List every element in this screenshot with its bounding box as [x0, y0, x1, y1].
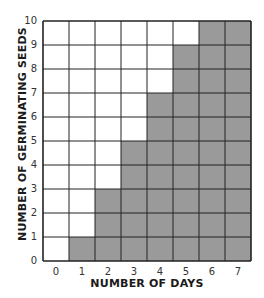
x-tick-label: 5 [176, 267, 196, 277]
bar-day-2 [95, 189, 121, 261]
bar-day-1 [69, 237, 95, 261]
x-tick-label: 3 [124, 267, 144, 277]
x-tick-label: 0 [46, 267, 66, 277]
x-tick-label: 7 [228, 267, 248, 277]
bar-day-5 [173, 45, 199, 261]
y-tick-label: 10 [23, 16, 37, 26]
x-tick-label: 2 [98, 267, 118, 277]
bar-day-4 [147, 93, 173, 261]
x-tick-label: 4 [150, 267, 170, 277]
plot-area [0, 0, 264, 298]
y-tick-label: 0 [23, 256, 37, 266]
bar-day-3 [121, 141, 147, 261]
x-tick-label: 1 [72, 267, 92, 277]
germination-chart: 012345678910 01234567 NUMBER OF DAYS NUM… [0, 0, 264, 298]
x-tick-label: 6 [202, 267, 222, 277]
y-axis-label: NUMBER OF GERMINATING SEEDS [16, 41, 29, 241]
x-axis-label: NUMBER OF DAYS [43, 277, 251, 290]
